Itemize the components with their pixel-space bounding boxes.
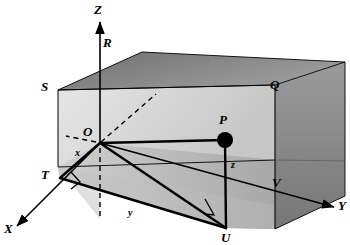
figure-canvas: Z Y X R S Q O P T V U x y z	[0, 0, 350, 245]
vertex-label-u: U	[221, 231, 230, 244]
box-face-right	[275, 62, 345, 229]
distance-label-z: z	[231, 160, 235, 170]
distance-label-y: y	[128, 208, 132, 218]
axis-label-x: X	[4, 222, 13, 235]
geometry-diagram	[0, 0, 350, 245]
vertex-label-t: T	[41, 168, 49, 181]
axis-label-z: Z	[94, 3, 102, 16]
vertex-label-p: P	[219, 113, 227, 126]
vertex-label-s: S	[41, 80, 48, 93]
vertex-label-q: Q	[270, 78, 279, 91]
vertex-label-o: O	[83, 125, 92, 138]
segment-pu	[225, 140, 226, 228]
distance-label-x: x	[75, 148, 80, 158]
axis-label-y: Y	[338, 199, 346, 212]
vertex-label-r: R	[103, 36, 112, 49]
vertex-label-v: V	[272, 176, 281, 189]
point-p-dot	[217, 132, 233, 148]
